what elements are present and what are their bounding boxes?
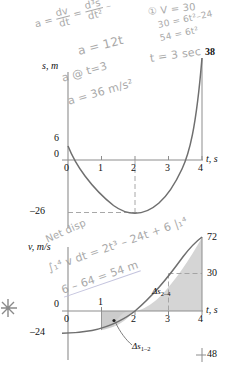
note-a-def-f1-denominator: dt	[56, 16, 73, 29]
note-a-equals-12t: a = 12t	[76, 33, 124, 58]
handwriting-layer: a = dv dt = d³s dt² – a = 12t a @ t=3 a …	[0, 0, 238, 368]
note-acceleration-definition: a = dv dt = d³s dt² –	[32, 0, 113, 35]
note-a-def-equals: =	[72, 7, 83, 20]
note-q1-line4: t = 3 sec	[149, 45, 202, 65]
note-a-def-fraction-1: dv dt	[54, 6, 73, 30]
note-a-value: a = 36 m/s²	[66, 77, 134, 108]
note-a-def-f2-denominator: dt²	[85, 8, 105, 22]
note-net-displacement: Net disp	[44, 217, 88, 245]
note-a-def-fraction-2: d³s dt²	[83, 0, 106, 22]
note-a-def-lead: a =	[34, 14, 54, 29]
note-a-at-t3: a @ t=3	[60, 59, 108, 84]
note-a-def-tail: –	[105, 0, 113, 12]
stray-pencil-mark-icon	[0, 298, 22, 320]
figure-canvas: s, m t, s 6 0 –26 38 0 1 2 3 4 v, m/s t,…	[0, 0, 238, 368]
